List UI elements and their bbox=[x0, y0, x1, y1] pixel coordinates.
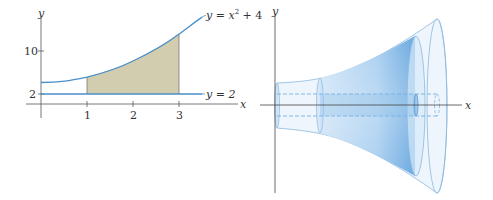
upper-curve-label-tail: + 4 bbox=[239, 9, 262, 22]
figure-canvas: y x 1 2 3 10 2 y = x2 + 4 y = 2 bbox=[0, 0, 493, 200]
right-graph: y x bbox=[260, 5, 472, 193]
upper-curve-label-base: y = x bbox=[205, 9, 235, 22]
x-tick-label-3: 3 bbox=[176, 109, 183, 122]
left-graph: y x 1 2 3 10 2 y = x2 + 4 y = 2 bbox=[24, 7, 262, 122]
right-y-axis-label: y bbox=[271, 5, 279, 18]
lower-line-label: y = 2 bbox=[205, 88, 235, 101]
right-x-axis-label: x bbox=[465, 99, 472, 112]
y-tick-label-10: 10 bbox=[24, 45, 38, 58]
x-tick-label-1: 1 bbox=[84, 109, 91, 122]
y-tick-label-2: 2 bbox=[29, 88, 36, 101]
upper-curve-label: y = x2 + 4 bbox=[205, 8, 262, 22]
left-y-axis-label: y bbox=[37, 7, 45, 20]
x-tick-label-2: 2 bbox=[130, 109, 137, 122]
left-x-axis-label: x bbox=[240, 98, 247, 111]
